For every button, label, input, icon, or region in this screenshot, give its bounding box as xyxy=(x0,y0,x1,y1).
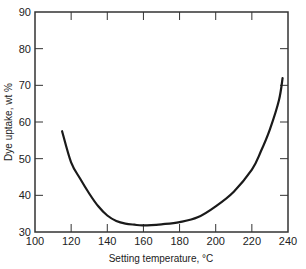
dye-uptake-curve xyxy=(62,78,283,225)
y-axis-label: Dye uptake, wt % xyxy=(3,83,14,161)
plot-border xyxy=(35,12,288,232)
x-tick-label: 160 xyxy=(134,235,152,247)
x-tick-label: 240 xyxy=(279,235,297,247)
y-tick-label: 90 xyxy=(19,6,31,18)
y-tick-label: 40 xyxy=(19,189,31,201)
y-tick-label: 80 xyxy=(19,43,31,55)
line-chart: 10012014016018020022024030405060708090 S… xyxy=(0,0,306,269)
y-tick-label: 60 xyxy=(19,116,31,128)
axis-ticks xyxy=(35,12,288,232)
x-tick-label: 140 xyxy=(98,235,116,247)
x-tick-label: 200 xyxy=(207,235,225,247)
plot-frame xyxy=(35,12,288,232)
y-tick-label: 70 xyxy=(19,79,31,91)
y-tick-label: 30 xyxy=(19,226,31,238)
x-axis-label: Setting temperature, °C xyxy=(109,253,214,264)
axis-tick-labels: 10012014016018020022024030405060708090 xyxy=(19,6,297,247)
x-tick-label: 180 xyxy=(170,235,188,247)
x-tick-label: 120 xyxy=(62,235,80,247)
y-tick-label: 50 xyxy=(19,153,31,165)
x-tick-label: 220 xyxy=(243,235,261,247)
